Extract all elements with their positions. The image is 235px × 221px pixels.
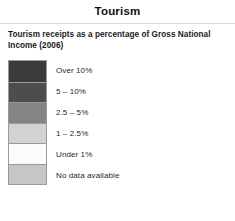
title-bar: Tourism <box>0 0 235 24</box>
legend-label-1-2_5: 1 – 2.5% <box>56 123 235 144</box>
legend-label-2_5-5: 2.5 – 5% <box>56 102 235 123</box>
page-title: Tourism <box>8 4 227 18</box>
tourism-legend-page: Tourism Tourism receipts as a percentage… <box>0 0 235 221</box>
legend: Over 10% 5 – 10% 2.5 – 5% 1 – 2.5% Under… <box>8 60 235 186</box>
legend-swatch-1-2_5 <box>9 123 46 144</box>
legend-label-column: Over 10% 5 – 10% 2.5 – 5% 1 – 2.5% Under… <box>56 60 235 186</box>
page-subtitle: Tourism receipts as a percentage of Gros… <box>0 24 235 51</box>
legend-swatch-under-1 <box>9 143 46 164</box>
legend-swatch-no-data <box>9 164 46 185</box>
legend-swatch-over-10 <box>9 61 46 82</box>
legend-swatch-2_5-5 <box>9 102 46 123</box>
legend-swatch-5-10 <box>9 82 46 103</box>
legend-label-no-data: No data available <box>56 165 235 186</box>
legend-label-under-1: Under 1% <box>56 144 235 165</box>
legend-swatch-column <box>8 60 47 185</box>
legend-label-over-10: Over 10% <box>56 60 235 81</box>
legend-label-5-10: 5 – 10% <box>56 81 235 102</box>
